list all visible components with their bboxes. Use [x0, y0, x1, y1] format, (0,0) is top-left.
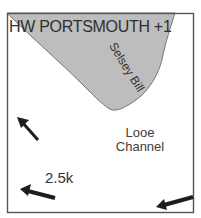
- map-title: HW PORTSMOUTH +1: [9, 18, 171, 36]
- tidal-stream-map: HW PORTSMOUTH +1 Selsey Bill Looe Channe…: [0, 0, 201, 218]
- water-label-looe: Looe: [118, 126, 162, 140]
- water-label-channel: Channel: [112, 140, 168, 154]
- stream-rate-label: 2.5k: [45, 169, 73, 186]
